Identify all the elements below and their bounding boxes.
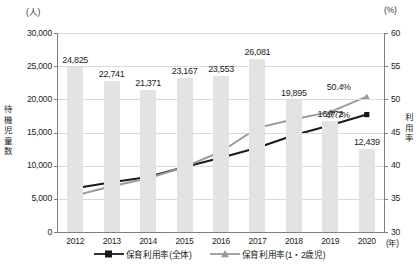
waiting-children-chart: (人) (%) 待機児童数 利用率 30,00025,00020,00015,0… bbox=[0, 0, 419, 268]
bar bbox=[104, 81, 120, 232]
line-end-value-label: 47.7% bbox=[326, 110, 350, 120]
bar bbox=[286, 100, 302, 232]
bar bbox=[177, 78, 193, 232]
right-axis-tick-mark bbox=[385, 99, 388, 100]
x-axis-unit: (年) bbox=[386, 236, 399, 248]
left-axis-tick-label: 0 bbox=[8, 227, 52, 237]
x-axis-tick-label: 2013 bbox=[95, 236, 129, 246]
x-axis-tick-label: 2020 bbox=[350, 236, 384, 246]
bar-value-label: 21,371 bbox=[124, 78, 172, 88]
right-axis-unit: (%) bbox=[384, 5, 397, 15]
right-axis-tick-mark bbox=[385, 166, 388, 167]
left-axis-tick-label: 15,000 bbox=[8, 127, 52, 137]
x-axis-tick-label: 2012 bbox=[58, 236, 92, 246]
left-axis-unit: (人) bbox=[26, 5, 40, 17]
legend-item-age12: 保育利用率(1・2歳児) bbox=[210, 248, 326, 260]
right-axis-tick-label: 35 bbox=[391, 193, 413, 203]
x-axis-tick-label: 2018 bbox=[277, 236, 311, 246]
right-axis-tick-label: 55 bbox=[391, 61, 413, 71]
right-axis-tick-label: 60 bbox=[391, 28, 413, 38]
legend-square-marker bbox=[94, 249, 124, 259]
bar-value-label: 24,825 bbox=[51, 55, 99, 65]
legend-item-overall: 保育利用率(全体) bbox=[94, 248, 192, 260]
left-axis-tick-label: 25,000 bbox=[8, 61, 52, 71]
bar bbox=[359, 149, 375, 232]
line-end-value-label: 50.4% bbox=[327, 82, 351, 92]
bar bbox=[140, 90, 156, 232]
right-axis-tick-label: 40 bbox=[391, 160, 413, 170]
left-axis-tick-label: 5,000 bbox=[8, 193, 52, 203]
right-axis-tick-label: 50 bbox=[391, 94, 413, 104]
right-axis-tick-mark bbox=[385, 33, 388, 34]
right-axis-tick-mark bbox=[385, 232, 388, 233]
left-axis-tick-label: 30,000 bbox=[8, 28, 52, 38]
x-axis-line bbox=[57, 232, 385, 233]
bar bbox=[249, 59, 265, 232]
right-axis-tick-label: 45 bbox=[391, 127, 413, 137]
bar-value-label: 19,895 bbox=[270, 88, 318, 98]
right-axis-tick-mark bbox=[385, 199, 388, 200]
bar-value-label: 12,439 bbox=[343, 137, 391, 147]
x-axis-tick-label: 2016 bbox=[204, 236, 238, 246]
bar-value-label: 26,081 bbox=[233, 47, 281, 57]
right-axis-tick-mark bbox=[385, 133, 388, 134]
square-marker bbox=[364, 112, 369, 117]
x-axis-tick-label: 2019 bbox=[313, 236, 347, 246]
legend-label-age12: 保育利用率(1・2歳児) bbox=[242, 248, 326, 260]
bar bbox=[213, 76, 229, 232]
bar-value-label: 23,553 bbox=[197, 64, 245, 74]
bar bbox=[322, 121, 338, 232]
right-axis-line bbox=[384, 33, 385, 233]
legend-triangle-marker bbox=[210, 249, 240, 259]
legend-label-overall: 保育利用率(全体) bbox=[126, 248, 192, 260]
x-axis-tick-label: 2017 bbox=[240, 236, 274, 246]
bar bbox=[67, 67, 83, 232]
x-axis-tick-label: 2014 bbox=[131, 236, 165, 246]
chart-legend: 保育利用率(全体) 保育利用率(1・2歳児) bbox=[0, 248, 419, 260]
left-axis-tick-label: 20,000 bbox=[8, 94, 52, 104]
gridline bbox=[57, 33, 385, 34]
left-axis-tick-label: 10,000 bbox=[8, 160, 52, 170]
right-axis-tick-mark bbox=[385, 66, 388, 67]
right-axis-tick-label: 30 bbox=[391, 227, 413, 237]
x-axis-tick-label: 2015 bbox=[168, 236, 202, 246]
